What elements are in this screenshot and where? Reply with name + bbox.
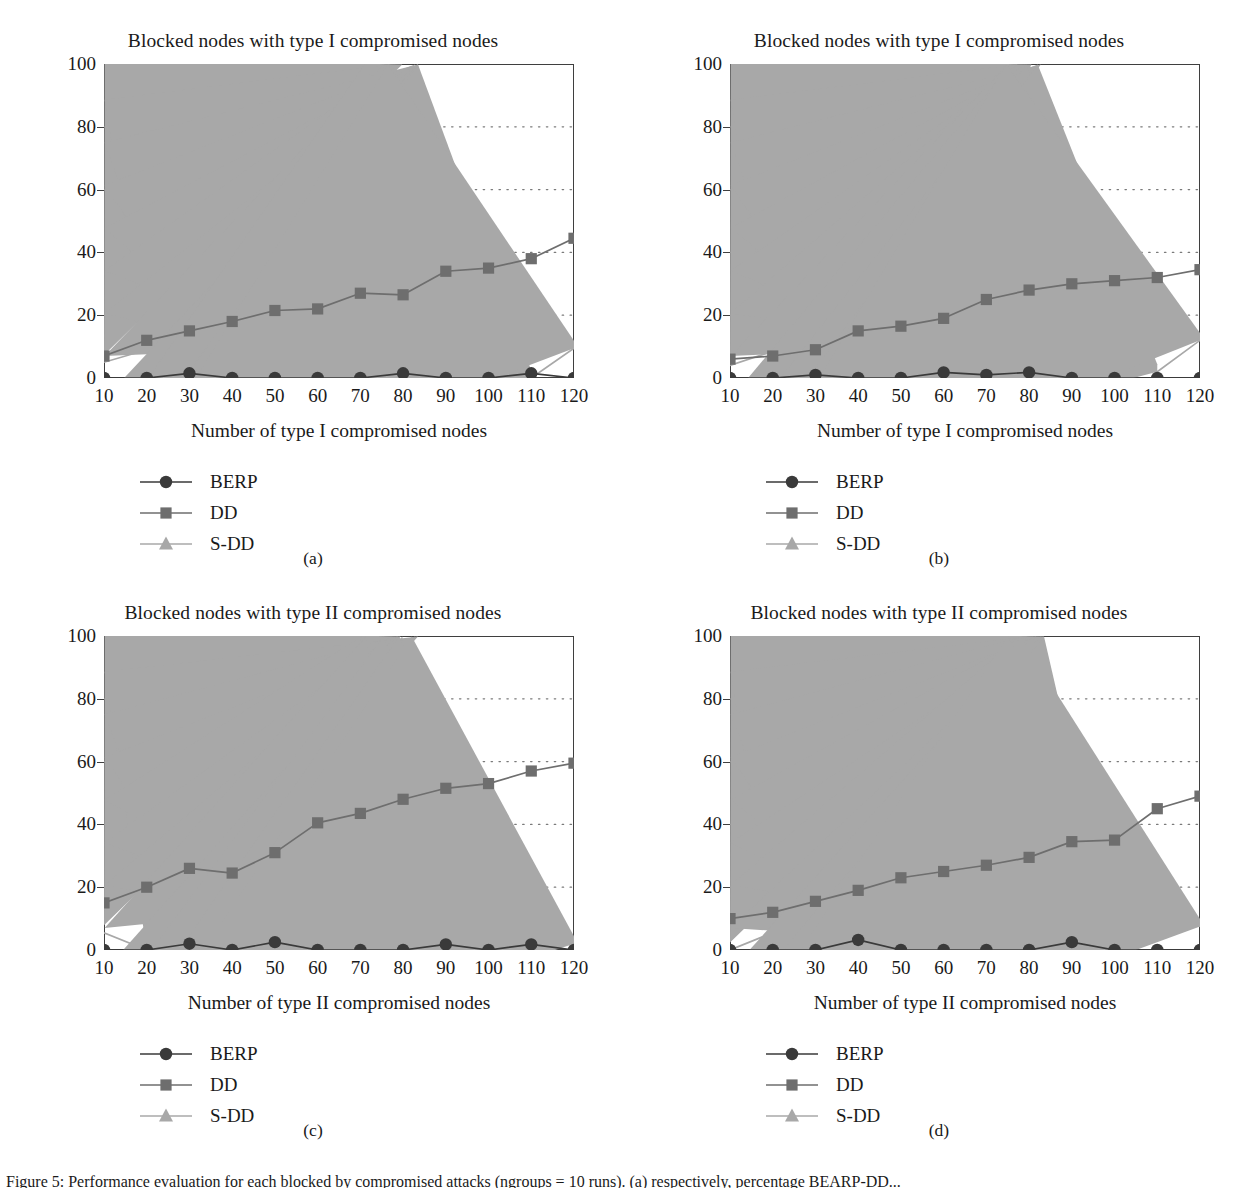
x-tick-label: 20 [763,385,782,407]
legend-marker-circle-icon [138,472,194,492]
y-tick-mark [97,824,104,825]
chart-title: Blocked nodes with type II compromised n… [626,602,1252,624]
plot-svg [730,636,1200,950]
y-tick-label: 60 [77,178,96,200]
y-tick-mark [97,887,104,888]
x-tick-label: 120 [560,957,589,979]
axes: 020406080100102030405060708090100110120 [104,636,574,950]
y-tick-mark [723,127,730,128]
x-tick-label: 100 [1100,957,1129,979]
plot-svg [104,636,574,950]
y-tick-label: 100 [694,625,723,647]
figure-caption: Figure 5: Performance evaluation for eac… [6,1172,1246,1188]
y-tick-label: 20 [703,876,722,898]
x-tick-label: 50 [265,385,284,407]
y-tick-label: 20 [77,304,96,326]
legend-marker-square-icon [138,1075,194,1095]
y-tick-mark [97,315,104,316]
x-tick-label: 30 [806,957,825,979]
subfigure-caption-a: (a) [0,548,626,569]
axes: 020406080100102030405060708090100110120 [730,64,1200,378]
subfigure-caption-b: (b) [626,548,1252,569]
x-tick-label: 110 [1143,957,1171,979]
plot-svg [104,64,574,378]
legend-item-berp[interactable]: BERP [138,1038,258,1069]
legend-marker-circle-icon [764,472,820,492]
chart-panel-d: Blocked nodes with type II compromised n… [626,580,1252,1160]
axes: 020406080100102030405060708090100110120 [104,64,574,378]
legend-item-berp[interactable]: BERP [138,466,258,497]
legend-label: DD [836,502,863,524]
y-tick-label: 100 [68,625,97,647]
x-tick-label: 100 [1100,385,1129,407]
x-tick-label: 40 [223,385,242,407]
x-tick-label: 10 [95,385,114,407]
subfigure-caption-d: (d) [626,1120,1252,1141]
legend-item-berp[interactable]: BERP [764,1038,884,1069]
y-tick-mark [723,762,730,763]
figure-root: Blocked nodes with type I compromised no… [0,0,1252,1188]
x-tick-label: 40 [849,385,868,407]
x-tick-label: 50 [891,957,910,979]
y-tick-label: 60 [703,178,722,200]
y-tick-mark [97,252,104,253]
chart-title: Blocked nodes with type I compromised no… [626,30,1252,52]
x-tick-label: 80 [1020,385,1039,407]
y-tick-mark [97,127,104,128]
legend-item-dd[interactable]: DD [764,1069,884,1100]
x-tick-label: 80 [394,385,413,407]
x-tick-label: 90 [436,957,455,979]
y-tick-label: 80 [703,687,722,709]
axes: 020406080100102030405060708090100110120 [730,636,1200,950]
x-tick-label: 30 [180,957,199,979]
y-tick-label: 20 [703,304,722,326]
x-tick-label: 60 [934,957,953,979]
x-tick-label: 70 [351,385,370,407]
chart-panel-c: Blocked nodes with type II compromised n… [0,580,626,1160]
plot-area: Blocked nodes (%)02040608010010203040506… [78,54,598,384]
y-tick-label: 40 [703,241,722,263]
legend-label: BERP [210,471,258,493]
x-tick-label: 70 [351,957,370,979]
y-tick-mark [97,762,104,763]
legend-label: BERP [836,471,884,493]
legend-item-dd[interactable]: DD [138,497,258,528]
x-tick-label: 90 [1062,385,1081,407]
legend-item-dd[interactable]: DD [764,497,884,528]
legend-item-berp[interactable]: BERP [764,466,884,497]
chart-title: Blocked nodes with type II compromised n… [0,602,626,624]
legend-marker-square-icon [764,503,820,523]
x-tick-label: 30 [180,385,199,407]
y-tick-label: 40 [77,241,96,263]
legend-marker-square-icon [138,503,194,523]
x-axis-label: Number of type II compromised nodes [730,992,1200,1014]
chart-title: Blocked nodes with type I compromised no… [0,30,626,52]
x-tick-label: 30 [806,385,825,407]
plot-area: Blocked nodes (%)02040608010010203040506… [704,54,1224,384]
x-tick-label: 10 [95,957,114,979]
y-tick-label: 80 [77,115,96,137]
x-tick-label: 70 [977,385,996,407]
x-tick-label: 60 [308,957,327,979]
legend-label: DD [210,1074,237,1096]
x-tick-label: 50 [891,385,910,407]
legend-marker-circle-icon [138,1044,194,1064]
chart-legend: BERP DD S-DD [764,1038,884,1131]
x-tick-label: 90 [436,385,455,407]
y-tick-label: 100 [694,53,723,75]
chart-legend: BERP DD S-DD [138,1038,258,1131]
legend-marker-square-icon [764,1075,820,1095]
y-tick-mark [723,315,730,316]
x-axis-label: Number of type II compromised nodes [104,992,574,1014]
x-tick-label: 120 [1186,957,1215,979]
x-tick-label: 70 [977,957,996,979]
x-tick-label: 110 [1143,385,1171,407]
y-tick-label: 20 [77,876,96,898]
legend-item-dd[interactable]: DD [138,1069,258,1100]
chart-panel-a: Blocked nodes with type I compromised no… [0,8,626,588]
y-tick-mark [723,190,730,191]
y-tick-label: 60 [77,750,96,772]
x-tick-label: 110 [517,957,545,979]
x-tick-label: 60 [308,385,327,407]
x-tick-label: 20 [763,957,782,979]
